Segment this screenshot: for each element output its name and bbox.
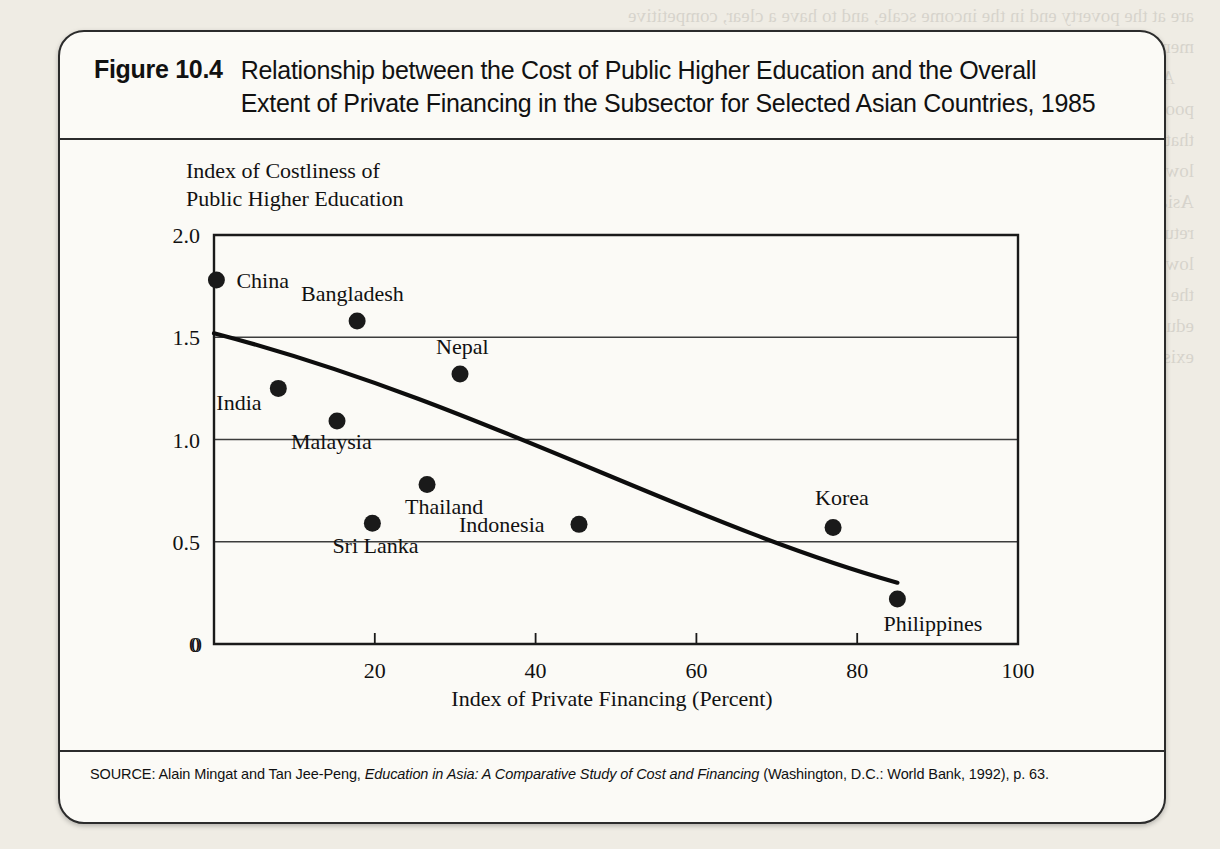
data-point-label: India: [216, 390, 261, 415]
y-tick-label: 1.0: [173, 428, 201, 453]
y-tick-labels: 00.51.01.52.0: [173, 223, 201, 657]
x-tick-label: 60: [685, 658, 707, 683]
data-point-label: Sri Lanka: [332, 533, 418, 558]
figure-title-line-2: Extent of Private Financing in the Subse…: [241, 87, 1096, 120]
data-point: [571, 516, 588, 533]
data-point-label: Philippines: [883, 611, 982, 636]
data-point-label: Indonesia: [459, 512, 545, 537]
data-point: [208, 271, 225, 288]
x-tick-label: 20: [364, 658, 386, 683]
data-point: [825, 519, 842, 536]
y-axis-title-line-2: Public Higher Education: [186, 186, 404, 211]
source-title: Education in Asia: A Comparative Study o…: [365, 766, 760, 782]
figure-number: Figure 10.4: [94, 54, 223, 120]
x-tick-label: 80: [846, 658, 868, 683]
x-tick-labels: 020406080100: [191, 632, 1035, 683]
figure-title: Relationship between the Cost of Public …: [241, 54, 1096, 120]
source-suffix: (Washington, D.C.: World Bank, 1992), p.…: [759, 766, 1049, 782]
x-tick-label: 40: [525, 658, 547, 683]
chart-area: Index of Costliness of Public Higher Edu…: [60, 140, 1164, 740]
data-point: [349, 312, 366, 329]
data-point: [329, 413, 346, 430]
x-axis-title: Index of Private Financing (Percent): [451, 686, 772, 711]
trend-curve: [214, 333, 897, 582]
y-tick-label: 1.5: [173, 325, 201, 350]
y-axis-title: Index of Costliness of Public Higher Edu…: [186, 158, 404, 211]
source-prefix: SOURCE: Alain Mingat and Tan Jee-Peng,: [90, 766, 365, 782]
data-point-label: Malaysia: [291, 429, 372, 454]
figure-header: Figure 10.4 Relationship between the Cos…: [60, 32, 1164, 130]
data-point-labels: ChinaBangladeshNepalIndiaMalaysiaThailan…: [216, 268, 982, 636]
data-point: [364, 515, 381, 532]
data-point-label: Nepal: [436, 334, 489, 359]
data-point: [270, 380, 287, 397]
data-point-label: Bangladesh: [301, 281, 404, 306]
x-tick-marks: [375, 633, 857, 644]
figure-title-line-1: Relationship between the Cost of Public …: [241, 54, 1096, 87]
data-point-label: Korea: [815, 485, 869, 510]
data-point-label: China: [236, 268, 289, 293]
source-bar: SOURCE: Alain Mingat and Tan Jee-Peng, E…: [60, 750, 1164, 822]
y-axis-title-line-1: Index of Costliness of: [186, 158, 380, 183]
y-tick-label: 2.0: [173, 223, 201, 248]
x-tick-label: 0: [191, 632, 202, 657]
source-note: SOURCE: Alain Mingat and Tan Jee-Peng, E…: [90, 766, 1134, 782]
scatter-plot: Index of Costliness of Public Higher Edu…: [60, 140, 1164, 740]
y-tick-label: 0.5: [173, 530, 201, 555]
data-point: [889, 591, 906, 608]
x-tick-label: 100: [1002, 658, 1035, 683]
figure-card: Figure 10.4 Relationship between the Cos…: [58, 30, 1166, 824]
data-point: [452, 366, 469, 383]
data-point: [419, 476, 436, 493]
